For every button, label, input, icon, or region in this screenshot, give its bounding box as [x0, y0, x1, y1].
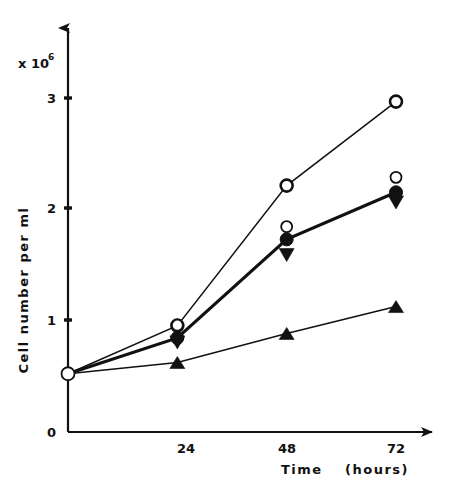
x-tick-label-72: 72 [387, 441, 405, 456]
series-line-open-circle-upper [68, 102, 396, 374]
data-point-down-triangle [389, 196, 404, 209]
data-point-up-triangle [389, 301, 404, 313]
series-markers-open-circle-upper [62, 96, 403, 381]
series-layer [62, 96, 404, 381]
series-line-filled-up-triangle [68, 307, 396, 374]
axes-group [68, 28, 432, 432]
data-point-origin [62, 367, 75, 380]
data-point-open-circle [281, 180, 293, 192]
series-markers-filled-down-triangle [170, 196, 404, 349]
chart-canvas: 3 2 1 0 x 10 6 Cell number per ml 24 48 … [0, 0, 450, 485]
y-tick-label-2: 2 [47, 201, 56, 216]
x-tick-label-48: 48 [278, 441, 296, 456]
x-axis-unit: (hours) [345, 462, 409, 477]
series-line-filled-circle [68, 192, 396, 373]
data-point-open-circle-small [281, 221, 292, 232]
y-axis-multiplier: x 10 6 [18, 52, 54, 71]
series-markers-filled-circle [171, 186, 403, 345]
data-point-down-triangle [279, 249, 294, 262]
data-point-up-triangle [279, 327, 294, 339]
y-tick-labels: 3 2 1 0 [47, 91, 56, 440]
y-multiplier-exponent: 6 [48, 52, 54, 62]
data-point-open-circle-small [391, 172, 402, 183]
y-tick-label-0: 0 [47, 425, 56, 440]
x-axis-title-group: Time (hours) [281, 462, 409, 477]
growth-curve-chart: 3 2 1 0 x 10 6 Cell number per ml 24 48 … [0, 0, 450, 485]
y-tick-label-1: 1 [47, 313, 56, 328]
y-multiplier-base: x 10 [18, 56, 49, 71]
data-point-filled-circle [280, 233, 293, 246]
y-axis-title: Cell number per ml [16, 207, 31, 374]
x-tick-label-24: 24 [177, 441, 195, 456]
y-tick-label-3: 3 [47, 91, 56, 106]
data-point-open-circle [390, 96, 402, 108]
x-axis-title: Time [281, 462, 323, 477]
data-point-open-circle-small [172, 320, 183, 331]
series-markers-filled-up-triangle [170, 301, 404, 369]
x-tick-labels: 24 48 72 [177, 441, 405, 456]
